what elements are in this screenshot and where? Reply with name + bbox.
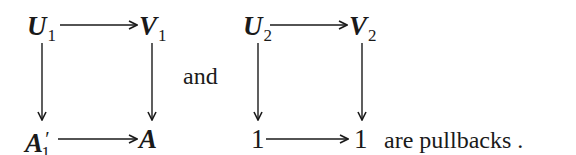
- node-u1: U1: [27, 13, 56, 49]
- trailing-text: are pullbacks .: [384, 128, 523, 152]
- node-u2: U2: [243, 13, 272, 49]
- node-terminal-right: 1: [354, 126, 368, 153]
- connector-and: and: [183, 64, 218, 88]
- node-v2: V2: [349, 13, 377, 49]
- node-a1-prime: A′1: [25, 126, 50, 155]
- node-a: A: [139, 126, 157, 153]
- node-terminal-left: 1: [251, 126, 265, 153]
- node-v1: V1: [139, 13, 167, 49]
